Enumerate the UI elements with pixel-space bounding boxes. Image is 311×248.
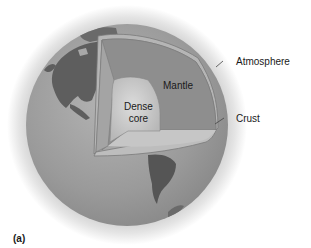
core-label-line2: core bbox=[124, 113, 153, 124]
mantle-label: Mantle bbox=[163, 80, 193, 91]
core-label: Dense core bbox=[124, 101, 153, 124]
crust-label: Crust bbox=[236, 113, 260, 124]
earth-diagram bbox=[0, 0, 311, 248]
panel-label: (a) bbox=[13, 233, 25, 244]
atmosphere-label: Atmosphere bbox=[236, 56, 290, 67]
core-label-line1: Dense bbox=[124, 101, 153, 112]
